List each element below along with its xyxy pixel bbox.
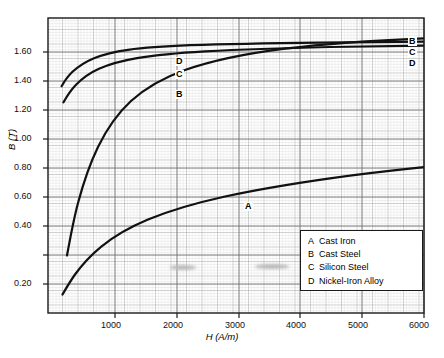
legend-key: B xyxy=(308,248,319,261)
paper-smudge xyxy=(170,265,196,270)
y-tick-label: 0.40 xyxy=(14,220,32,230)
edge-label-D: D xyxy=(408,59,417,68)
magnetization-curve-figure: 1.60 1.40 1.20 1.00 0.80 0.60 0.40 0.20 … xyxy=(0,0,444,358)
legend-item: B Cast Steel xyxy=(308,248,416,261)
x-tick-label: 6000 xyxy=(409,320,429,330)
y-axis-title: B (T) xyxy=(6,129,17,150)
edge-label-B: B xyxy=(408,37,417,46)
edge-label-C: C xyxy=(408,48,417,57)
y-tick-label: 1.60 xyxy=(14,46,32,56)
x-axis-title: H (A/m) xyxy=(0,331,444,342)
x-tick-marks xyxy=(115,313,424,318)
curve-label-C: C xyxy=(175,70,184,79)
y-tick-label: 1.40 xyxy=(14,75,32,85)
y-tick-label: 0.20 xyxy=(14,278,32,288)
legend-item: A Cast Iron xyxy=(308,235,416,248)
curve-label-D: D xyxy=(175,57,184,66)
y-axis-title-wrapper: B (T) xyxy=(6,150,66,170)
x-tick-label: 3000 xyxy=(225,320,245,330)
plot-canvas xyxy=(0,0,444,358)
legend-label: Cast Steel xyxy=(319,248,361,261)
x-tick-label: 4000 xyxy=(286,320,306,330)
x-tick-label: 2000 xyxy=(163,320,183,330)
legend-item: D Nickel-Iron Alloy xyxy=(308,275,416,288)
legend-item: C Silicon Steel xyxy=(308,261,416,274)
legend-label: Cast Iron xyxy=(319,235,356,248)
x-tick-label: 5000 xyxy=(348,320,368,330)
legend-key: D xyxy=(308,275,319,288)
y-tick-label: 0.60 xyxy=(14,191,32,201)
paper-smudge xyxy=(255,264,289,269)
curve-label-B: B xyxy=(175,90,184,99)
legend-label: Silicon Steel xyxy=(319,261,369,274)
legend-key: C xyxy=(308,261,319,274)
legend-key: A xyxy=(308,235,319,248)
y-tick-label: 1.20 xyxy=(14,104,32,114)
x-tick-label: 1000 xyxy=(101,320,121,330)
legend: A Cast Iron B Cast Steel C Silicon Steel… xyxy=(300,230,423,291)
curve-label-A: A xyxy=(244,202,253,211)
legend-label: Nickel-Iron Alloy xyxy=(319,275,384,288)
